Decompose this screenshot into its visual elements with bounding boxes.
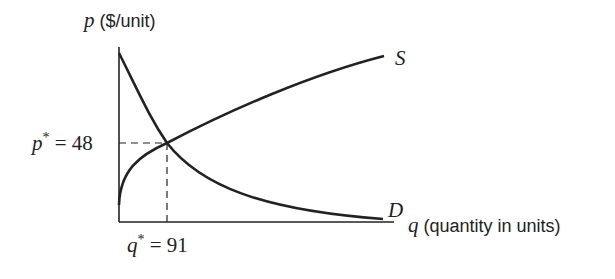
- supply-label: S: [395, 46, 406, 70]
- demand-label: D: [387, 198, 403, 222]
- q-star-label: q* = 91: [127, 232, 188, 257]
- p-star-label: p* = 48: [30, 130, 93, 155]
- y-axis-label: p ($/unit): [82, 8, 156, 32]
- demand-curve: [119, 53, 383, 219]
- x-axis-label: q (quantity in units): [408, 213, 561, 237]
- supply-demand-chart: p ($/unit) q (quantity in units) S D p* …: [0, 0, 615, 279]
